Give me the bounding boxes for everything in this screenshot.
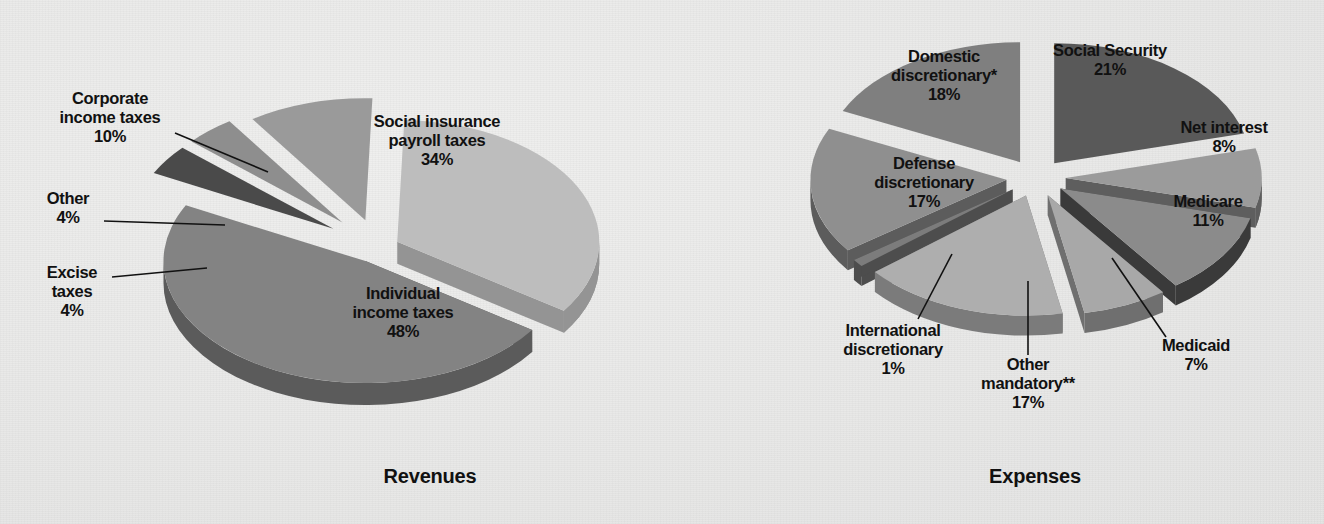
expenses-chart: Social Security21%Net interest8%Medicare… — [810, 41, 1268, 487]
slice-label-other: Other4% — [47, 189, 90, 226]
slice-label-international-discretionary: Internationaldiscretionary1% — [843, 321, 944, 377]
revenues-slice-tops — [154, 98, 599, 383]
slice-label-excise-taxes: Excisetaxes4% — [47, 263, 98, 319]
slice-label-other-mandatory: Othermandatory**17% — [981, 355, 1076, 411]
pie-charts-canvas: Social insurancepayroll taxes34%Individu… — [0, 0, 1324, 524]
slice-label-corporate-income-taxes: Corporateincome taxes10% — [60, 89, 161, 145]
revenues-chart: Social insurancepayroll taxes34%Individu… — [47, 89, 600, 487]
revenues-title: Revenues — [384, 465, 477, 487]
expenses-title: Expenses — [989, 465, 1081, 487]
slice-label-medicaid: Medicaid7% — [1162, 336, 1230, 373]
